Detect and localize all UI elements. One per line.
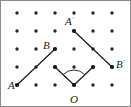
label-B: B: [43, 39, 50, 51]
segment-A'B': [74, 31, 112, 67]
endpoint-dot-B: [53, 47, 57, 51]
endpoint-markers: [15, 29, 114, 87]
endpoint-dot-A-prime: [72, 29, 76, 33]
grid-dot: [34, 11, 37, 14]
grid-dot: [15, 11, 18, 14]
geometry-figure: A B A B O ' ': [0, 0, 131, 107]
grid-dot: [110, 29, 113, 32]
grid-dot: [91, 11, 94, 14]
grid-dot: [72, 47, 75, 50]
label-B-prime-mark: ': [123, 58, 125, 66]
angle-arc-at-O: [63, 70, 84, 74]
ray-O-left: [55, 67, 74, 85]
grid-dot: [34, 83, 37, 86]
label-A: A: [7, 79, 15, 91]
endpoint-dot-ray_left_end: [53, 65, 57, 69]
endpoint-dot-B-prime: [110, 65, 114, 69]
grid-dot: [15, 29, 18, 32]
grid-dot: [72, 65, 75, 68]
grid-dot: [34, 47, 37, 50]
grid-dot: [91, 29, 94, 32]
grid-dot: [15, 65, 18, 68]
point-labels: A B A B O ' ': [7, 15, 125, 105]
endpoint-dot-A: [15, 83, 19, 87]
label-A-prime: A: [64, 15, 72, 27]
segments-group: [17, 31, 112, 85]
grid-dot: [15, 47, 18, 50]
ray-O-right: [74, 67, 93, 85]
grid-dot: [91, 83, 94, 86]
grid-dot: [110, 11, 113, 14]
label-A-prime-mark: ': [72, 15, 74, 23]
grid-dot: [34, 29, 37, 32]
grid-dot: [53, 11, 56, 14]
grid-dot: [53, 29, 56, 32]
figure-canvas: A B A B O ' ': [0, 0, 131, 107]
grid-dot: [110, 47, 113, 50]
grid-dot: [110, 83, 113, 86]
endpoint-dot-ray_right_end: [91, 65, 95, 69]
segment-AB: [17, 49, 55, 85]
label-O: O: [70, 93, 78, 105]
label-B-prime: B: [116, 58, 123, 70]
grid-dot: [53, 83, 56, 86]
endpoint-dot-O: [72, 83, 76, 87]
